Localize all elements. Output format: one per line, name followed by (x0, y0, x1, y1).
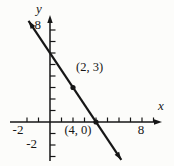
x-tick-label-neg-2: -2 (13, 123, 24, 136)
coordinate-plane-figure: y x 8 -2 -2 8 (2, 3) (4, 0) (0, 0, 174, 166)
point-label-4-0: (4, 0) (64, 124, 91, 137)
y-tick-label-8: 8 (35, 18, 42, 31)
point-dot (70, 85, 75, 90)
x-axis-arrowhead (154, 119, 162, 124)
plotted-line (29, 21, 122, 160)
point-dot (93, 119, 98, 124)
x-tick-label-8: 8 (138, 123, 145, 136)
y-axis-label: y (36, 2, 42, 15)
point-label-2-3: (2, 3) (76, 61, 103, 74)
y-tick-label-neg-2: -2 (26, 137, 37, 150)
y-axis-arrowhead (47, 15, 52, 23)
x-axis-label: x (158, 99, 164, 112)
